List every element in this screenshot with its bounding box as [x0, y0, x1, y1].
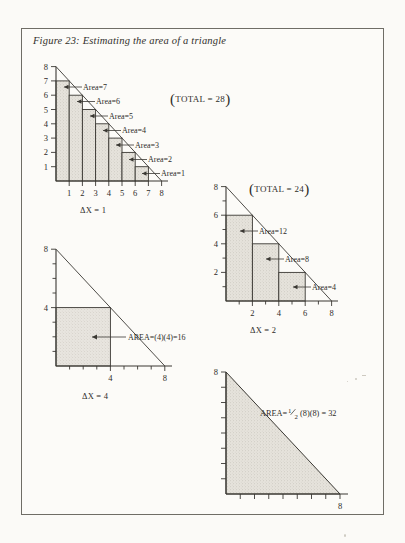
- chart-dx4-y-ticks: [51, 249, 56, 351]
- svg-text:8: 8: [44, 62, 48, 72]
- svg-text:2: 2: [80, 188, 84, 198]
- paren-close: ): [225, 91, 230, 107]
- svg-text:Area=1: Area=1: [161, 169, 185, 178]
- chart-dx4-x-ticks: [70, 366, 165, 371]
- chart-dx1-total-note: (TOTAL = 28): [170, 91, 230, 108]
- svg-text:4: 4: [108, 373, 113, 383]
- chart-dx4-area-label: AREA=(4)(4)=16: [128, 333, 185, 342]
- scan-speck: [344, 534, 346, 537]
- chart-dx1-y-labels: 8 7 6 5 4 3 2 1: [44, 62, 49, 172]
- chart-dx4: 8 4 4 8: [30, 234, 225, 399]
- svg-text:Area=7: Area=7: [83, 83, 107, 92]
- svg-text:1: 1: [67, 188, 71, 198]
- total-text: TOTAL = 24: [254, 184, 304, 194]
- chart-dx1-y-ticks: [51, 67, 56, 167]
- area-prefix: AREA=: [260, 409, 288, 418]
- scan-speck: [355, 378, 357, 380]
- svg-text:8: 8: [329, 308, 333, 318]
- area-frac-numerator: 1: [288, 407, 291, 414]
- svg-text:8: 8: [163, 373, 167, 383]
- svg-text:5: 5: [44, 105, 48, 115]
- chart-dx1-delta-label: ΔX = 1: [80, 205, 106, 215]
- svg-text:Area=3: Area=3: [135, 141, 159, 150]
- svg-text:Area=6: Area=6: [96, 97, 120, 106]
- svg-text:8: 8: [214, 182, 218, 192]
- svg-text:6: 6: [214, 210, 218, 220]
- svg-text:Area=5: Area=5: [109, 112, 133, 121]
- svg-text:5: 5: [120, 188, 124, 198]
- scan-speck: [347, 381, 348, 382]
- area-frac-denominator: 2: [294, 413, 298, 420]
- svg-text:4: 4: [277, 308, 282, 318]
- chart-exact-y-label: 8: [214, 367, 218, 377]
- svg-text:1: 1: [44, 162, 48, 172]
- scan-speck: [362, 375, 366, 376]
- chart-dx2-x-ticks: [239, 301, 331, 306]
- area-suffix: (8)(8) = 32: [300, 409, 336, 418]
- chart-dx4-delta-label: ΔX = 4: [82, 391, 108, 401]
- chart-dx1-x-labels: 1 2 3 4 5 6 7 8: [67, 188, 164, 198]
- chart-exact-area-label: AREA= 1 2 (8)(8) = 32: [260, 407, 336, 421]
- svg-text:Area=4: Area=4: [312, 283, 336, 292]
- chart-exact: 8 8 AREA= 1 2 (: [200, 354, 385, 514]
- svg-text:8: 8: [159, 188, 163, 198]
- paren-close: ): [304, 181, 309, 197]
- svg-text:3: 3: [44, 133, 48, 143]
- svg-text:Area=4: Area=4: [122, 126, 146, 135]
- page-canvas: Figure 23: Estimating the area of a tria…: [0, 0, 405, 543]
- figure-box: Figure 23: Estimating the area of a tria…: [21, 28, 384, 515]
- svg-text:4: 4: [44, 119, 49, 129]
- figure-title: Figure 23: Estimating the area of a tria…: [33, 35, 226, 46]
- chart-dx2-total-note: (TOTAL = 24): [249, 181, 309, 198]
- svg-text:Area=8: Area=8: [285, 255, 309, 264]
- svg-text:3: 3: [93, 188, 97, 198]
- svg-text:2: 2: [250, 308, 254, 318]
- svg-text:6: 6: [133, 188, 137, 198]
- svg-text:6: 6: [44, 90, 48, 100]
- chart-exact-x-ticks: [240, 494, 340, 499]
- chart-dx2-x-labels: 2 4 6 8: [250, 308, 333, 318]
- chart-dx4-y-labels: 8 4: [44, 244, 49, 312]
- chart-exact-x-label: 8: [338, 501, 342, 511]
- svg-text:4: 4: [44, 303, 49, 313]
- svg-text:8: 8: [44, 244, 48, 254]
- svg-text:Area=2: Area=2: [148, 155, 172, 164]
- svg-text:2: 2: [44, 147, 48, 157]
- svg-text:7: 7: [44, 76, 48, 86]
- chart-dx1-x-ticks: [69, 181, 161, 186]
- svg-text:Area=12: Area=12: [259, 227, 287, 236]
- chart-dx1: 8 7 6 5 4 3 2 1: [30, 51, 220, 211]
- svg-text:7: 7: [146, 188, 150, 198]
- chart-exact-triangle: [226, 372, 340, 494]
- svg-text:6: 6: [303, 308, 307, 318]
- total-text: TOTAL = 28: [175, 94, 225, 104]
- chart-dx2-delta-label: ΔX = 2: [250, 325, 276, 335]
- chart-exact-y-ticks: [221, 372, 226, 479]
- svg-text:4: 4: [107, 188, 112, 198]
- chart-dx4-x-labels: 4 8: [108, 373, 167, 383]
